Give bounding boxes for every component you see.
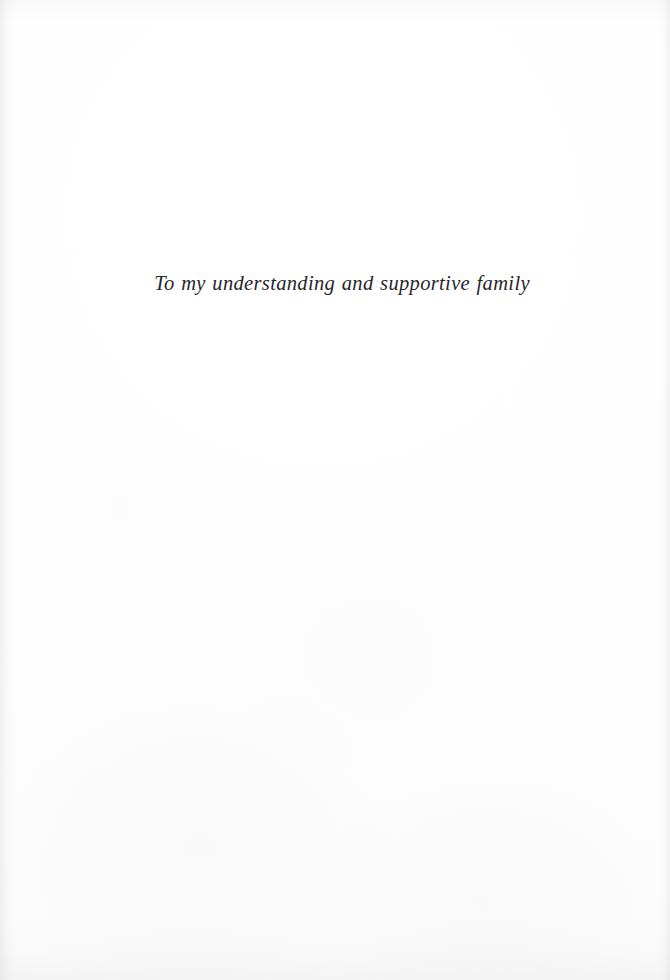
scanned-book-page: To my understanding and supportive famil…: [0, 0, 670, 980]
paper-background: [0, 0, 670, 980]
